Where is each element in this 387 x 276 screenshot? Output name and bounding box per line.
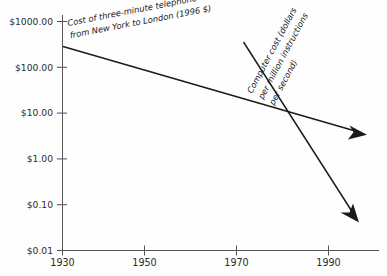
x-tick-label-1990: 1990: [316, 257, 340, 268]
y-tick-label-1000: $1000.00: [9, 16, 53, 27]
chart-container: $1000.00 $100.00 $10.00 $1.00 $0.10 $0.0…: [0, 0, 387, 276]
series-telephone-arrowhead: [348, 125, 367, 139]
annotation-computer-label: Computer cost (dollars per million instr…: [244, 5, 321, 108]
series-telephone-call: [63, 47, 367, 140]
series-telephone-line: [63, 47, 357, 132]
x-tick-label-1970: 1970: [224, 257, 248, 268]
y-tick-label-0.01: $0.01: [27, 245, 53, 256]
y-tick-label-group: $1000.00 $100.00 $10.00 $1.00 $0.10 $0.0…: [9, 16, 53, 256]
y-tick-label-0.10: $0.10: [27, 199, 53, 210]
y-tick-label-10: $10.00: [21, 107, 53, 118]
x-tick-label-group: 1930 1950 1970 1990: [50, 257, 340, 268]
axis-group: [63, 15, 380, 251]
annotation-telephone-label: Cost of three-minute telephone call from…: [66, 0, 217, 40]
y-tick-label-100: $100.00: [15, 62, 53, 73]
x-tick-label-1950: 1950: [132, 257, 156, 268]
x-tick-label-1930: 1930: [50, 257, 74, 268]
chart-canvas: $1000.00 $100.00 $10.00 $1.00 $0.10 $0.0…: [0, 0, 387, 276]
series-computer-arrowhead: [341, 204, 360, 223]
y-tick-label-1: $1.00: [27, 153, 53, 164]
